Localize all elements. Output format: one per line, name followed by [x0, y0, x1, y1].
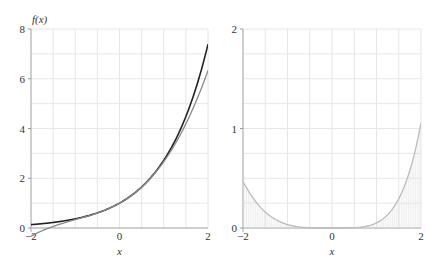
y-tick-label: 6 [20, 73, 26, 85]
grid [243, 29, 421, 228]
x-tick-label: 0 [117, 230, 123, 242]
x-tick-label: 2 [418, 230, 424, 242]
y-tick-label: 2 [232, 23, 238, 35]
right-plot: 012−202x [232, 23, 424, 257]
x-tick-label: 2 [205, 230, 211, 242]
y-axis-label: f(x) [32, 13, 48, 26]
x-axis-label: x [329, 245, 335, 257]
y-tick-label: 2 [20, 172, 26, 184]
y-tick-label: 8 [20, 23, 26, 35]
x-axis-label: x [116, 245, 122, 257]
y-tick-label: 1 [232, 123, 238, 135]
x-tick-label: 0 [329, 230, 335, 242]
x-tick-label: −2 [237, 230, 249, 242]
chart-canvas: 02468−202xf(x)012−202x [0, 0, 443, 270]
left-plot: 02468−202xf(x) [20, 13, 211, 257]
y-tick-label: 4 [20, 123, 26, 135]
